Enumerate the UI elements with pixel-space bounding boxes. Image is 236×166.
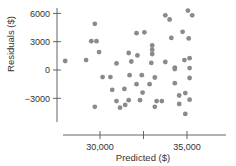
data-point xyxy=(182,58,187,63)
data-point xyxy=(63,59,68,64)
data-point xyxy=(172,67,177,72)
data-point xyxy=(149,61,154,66)
data-point xyxy=(127,73,132,78)
data-point xyxy=(134,82,139,87)
data-point xyxy=(122,87,127,92)
data-point xyxy=(163,60,168,65)
data-point xyxy=(187,76,192,81)
data-point xyxy=(183,91,188,96)
data-point xyxy=(92,104,97,109)
data-point xyxy=(84,58,89,63)
y-tick-label: 0 xyxy=(45,65,50,75)
data-point xyxy=(169,36,174,41)
scatter-chart: 600030000−3000 30,00035,000 Predicted ($… xyxy=(0,0,236,166)
data-point xyxy=(126,51,131,56)
data-point xyxy=(114,99,119,104)
data-point xyxy=(150,43,155,48)
data-point xyxy=(138,98,143,103)
data-point xyxy=(142,30,147,35)
data-points xyxy=(63,8,195,116)
data-point xyxy=(187,97,192,102)
data-point xyxy=(129,59,134,64)
data-point xyxy=(172,81,177,86)
x-axis-title: Predicted ($) xyxy=(116,152,170,163)
data-point xyxy=(152,104,157,109)
data-point xyxy=(147,82,152,87)
data-point xyxy=(150,52,155,57)
data-point xyxy=(114,61,119,66)
data-point xyxy=(110,87,115,92)
data-point xyxy=(123,103,128,108)
data-point xyxy=(139,73,144,78)
data-point xyxy=(186,8,191,13)
data-point xyxy=(152,75,157,80)
data-point xyxy=(126,98,131,103)
data-point xyxy=(134,31,139,36)
y-tick-label: −3000 xyxy=(25,94,50,104)
data-point xyxy=(183,112,188,117)
data-point xyxy=(177,93,182,98)
data-point xyxy=(187,66,192,71)
y-tick-label: 6000 xyxy=(30,9,50,19)
data-point xyxy=(187,56,192,61)
data-point xyxy=(177,102,182,107)
data-point xyxy=(92,21,97,26)
data-point xyxy=(163,13,168,18)
data-point xyxy=(154,99,159,104)
data-point xyxy=(180,29,185,34)
x-tick-label: 30,000 xyxy=(86,142,114,152)
data-point xyxy=(94,39,99,44)
data-point xyxy=(167,17,172,22)
y-ticks: 600030000−3000 xyxy=(25,9,61,104)
data-point xyxy=(150,47,155,52)
data-point xyxy=(89,39,94,44)
y-tick-label: 3000 xyxy=(30,37,50,47)
data-point xyxy=(140,90,145,95)
x-tick-label: 35,000 xyxy=(173,142,201,152)
data-point xyxy=(100,75,105,80)
data-point xyxy=(108,75,113,80)
data-point xyxy=(97,50,102,55)
data-point xyxy=(135,53,140,58)
x-ticks: 30,00035,000 xyxy=(86,131,201,152)
data-point xyxy=(159,99,164,104)
y-axis-title: Residuals ($) xyxy=(5,16,16,72)
data-point xyxy=(186,36,191,41)
data-point xyxy=(190,13,195,18)
data-point xyxy=(118,105,123,110)
